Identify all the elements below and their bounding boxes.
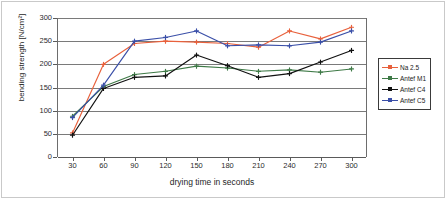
data-point	[226, 44, 230, 48]
data-point	[319, 40, 323, 44]
y-tickmark-300	[53, 18, 57, 19]
series-line	[73, 66, 352, 116]
data-point	[133, 75, 137, 79]
data-point	[195, 64, 199, 68]
data-point	[164, 35, 168, 39]
series-line	[73, 31, 352, 118]
data-point	[195, 29, 199, 33]
legend-label: Antef C5	[400, 96, 425, 105]
data-point	[350, 29, 354, 33]
legend-item-antef-c5[interactable]: Antef C5	[382, 95, 426, 106]
y-tickmark-0	[53, 157, 57, 158]
legend-swatch-icon	[382, 74, 398, 83]
data-point	[257, 75, 261, 79]
y-tickmark-50	[53, 134, 57, 135]
data-point	[226, 64, 230, 68]
data-point	[288, 72, 292, 76]
data-point	[350, 48, 354, 52]
legend-item-na-2-5[interactable]: Na 2.5	[382, 62, 426, 73]
legend-label: Na 2.5	[400, 63, 419, 72]
legend-label: Antef M1	[400, 74, 426, 83]
legend-swatch-icon	[382, 85, 398, 94]
data-point	[195, 40, 199, 44]
data-point	[288, 44, 292, 48]
y-tickmark-200	[53, 64, 57, 65]
data-point	[164, 69, 168, 73]
data-point	[350, 67, 354, 71]
data-point	[257, 69, 261, 73]
y-tickmark-100	[53, 111, 57, 112]
y-tickmark-250	[53, 41, 57, 42]
series-line	[73, 50, 352, 135]
legend-item-antef-m1[interactable]: Antef M1	[382, 73, 426, 84]
data-point	[319, 60, 323, 64]
legend-label: Antef C4	[400, 85, 425, 94]
data-point	[288, 29, 292, 33]
series-na-2-5	[71, 25, 354, 135]
legend-swatch-icon	[382, 96, 398, 105]
legend-swatch-icon	[382, 63, 398, 72]
chart-legend: Na 2.5Antef M1Antef C4Antef C5	[378, 58, 431, 110]
legend-item-antef-c4[interactable]: Antef C4	[382, 84, 426, 95]
data-point	[319, 70, 323, 74]
y-tickmark-150	[53, 88, 57, 89]
series-antef-c4	[71, 48, 354, 137]
chart-figure: bending strength [N/cm²] 050100150200250…	[0, 0, 448, 201]
